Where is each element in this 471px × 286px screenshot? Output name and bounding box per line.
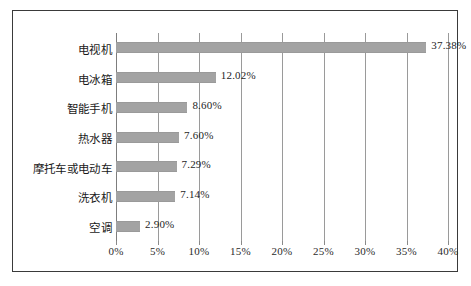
chart-frame: 电视机电冰箱智能手机热水器摩托车或电动车洗衣机空调 0%5%10%15%20%2… — [12, 10, 458, 272]
category-label: 智能手机 — [67, 100, 112, 116]
bar[interactable] — [116, 221, 140, 232]
bar-row[interactable]: 2.90% — [116, 221, 448, 232]
bar-value-label: 37.38% — [431, 39, 466, 51]
x-tick-label: 0% — [108, 245, 123, 257]
category-label: 电视机 — [78, 41, 112, 57]
category-label: 摩托车或电动车 — [33, 160, 112, 176]
bar-row[interactable]: 37.38% — [116, 42, 448, 53]
x-tick-label: 10% — [189, 245, 210, 257]
bar[interactable] — [116, 42, 426, 53]
x-tick-label: 30% — [355, 245, 376, 257]
bar-row[interactable]: 8.60% — [116, 102, 448, 113]
bar-row[interactable]: 7.60% — [116, 132, 448, 143]
bar-value-label: 8.60% — [192, 99, 221, 111]
bar[interactable] — [116, 72, 216, 83]
bar[interactable] — [116, 132, 179, 143]
category-label: 洗衣机 — [78, 189, 112, 205]
x-tick-label: 5% — [150, 245, 165, 257]
bar[interactable] — [116, 161, 177, 172]
x-tick-label: 25% — [313, 245, 334, 257]
bar-value-label: 12.02% — [221, 69, 256, 81]
category-label: 电冰箱 — [78, 71, 112, 87]
bar-row[interactable]: 12.02% — [116, 72, 448, 83]
bar[interactable] — [116, 102, 187, 113]
gridline-40% — [448, 33, 449, 241]
bar-row[interactable]: 7.29% — [116, 161, 448, 172]
bar-row[interactable]: 7.14% — [116, 191, 448, 202]
bar-value-label: 2.90% — [145, 218, 174, 230]
category-label: 空调 — [89, 219, 112, 235]
x-tick-label: 40% — [438, 245, 459, 257]
x-tick-label: 35% — [396, 245, 417, 257]
x-tick-label: 15% — [230, 245, 251, 257]
bar-value-label: 7.14% — [180, 188, 209, 200]
category-axis-labels: 电视机电冰箱智能手机热水器摩托车或电动车洗衣机空调 — [27, 33, 112, 241]
chart-container: 电视机电冰箱智能手机热水器摩托车或电动车洗衣机空调 0%5%10%15%20%2… — [0, 0, 471, 286]
x-tick-label: 20% — [272, 245, 293, 257]
plot-area: 0%5%10%15%20%25%30%35%40%37.38%12.02%8.6… — [116, 33, 448, 241]
bar-value-label: 7.60% — [184, 129, 213, 141]
bar[interactable] — [116, 191, 175, 202]
category-label: 热水器 — [78, 130, 112, 146]
bar-value-label: 7.29% — [182, 158, 211, 170]
